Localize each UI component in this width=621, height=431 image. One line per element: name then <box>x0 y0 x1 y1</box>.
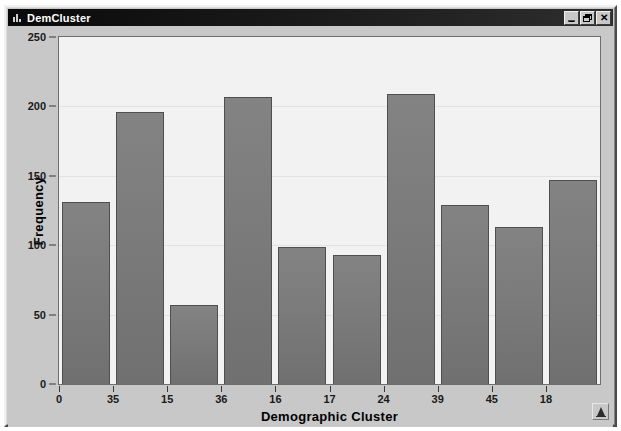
x-tick-label: 18 <box>540 393 552 405</box>
bar[interactable] <box>278 247 326 384</box>
x-tick-label: 39 <box>432 393 444 405</box>
plot-area <box>58 36 601 385</box>
x-tick-mark <box>113 386 114 392</box>
alert-triangle-base <box>596 416 606 417</box>
y-tick-label: 200 <box>28 100 46 112</box>
window-titlebar[interactable]: DemCluster ✕ <box>8 9 613 26</box>
bar-series <box>59 37 600 384</box>
x-tick-mark <box>492 386 493 392</box>
bar[interactable] <box>62 202 110 384</box>
bar[interactable] <box>441 205 489 384</box>
bar[interactable] <box>116 112 164 384</box>
x-tick-mark <box>330 386 331 392</box>
y-tick-mark <box>49 106 56 107</box>
x-tick-label: 0 <box>56 393 62 405</box>
x-tick-label: 17 <box>323 393 335 405</box>
x-tick-label: 45 <box>486 393 498 405</box>
y-tick-mark <box>49 37 56 38</box>
y-tick-label: 150 <box>28 170 46 182</box>
x-tick-mark <box>275 386 276 392</box>
application-window: DemCluster ✕ Frequency 050100150200250 <box>4 5 617 427</box>
y-tick-label: 0 <box>40 378 46 390</box>
y-axis: 050100150200250 <box>8 27 58 395</box>
restore-icon-back <box>583 16 590 22</box>
y-tick-mark <box>49 175 56 176</box>
bar-chart: Frequency 050100150200250 03515361617243… <box>8 27 613 427</box>
x-tick-mark <box>546 386 547 392</box>
x-tick-label: 35 <box>107 393 119 405</box>
bar[interactable] <box>549 180 597 384</box>
alert-triangle-icon[interactable] <box>592 403 609 420</box>
x-tick-mark <box>384 386 385 392</box>
y-tick-label: 100 <box>28 239 46 251</box>
x-tick-label: 24 <box>377 393 389 405</box>
bar[interactable] <box>333 255 381 384</box>
y-tick-mark <box>49 384 56 385</box>
x-tick-mark <box>438 386 439 392</box>
window-title: DemCluster <box>27 12 563 24</box>
bar[interactable] <box>224 97 272 384</box>
bar[interactable] <box>170 305 218 384</box>
y-tick-label: 250 <box>28 31 46 43</box>
x-tick-mark <box>221 386 222 392</box>
minimize-button[interactable] <box>564 11 579 25</box>
x-axis-label: Demographic Cluster <box>58 409 601 424</box>
alert-triangle-glyph <box>597 407 605 416</box>
minimize-icon <box>568 20 575 22</box>
x-tick-mark <box>167 386 168 392</box>
bar-chart-icon <box>11 12 23 24</box>
bar[interactable] <box>495 227 543 384</box>
y-tick-label: 50 <box>34 309 46 321</box>
y-tick-mark <box>49 245 56 246</box>
close-icon: ✕ <box>597 12 610 24</box>
x-tick-label: 15 <box>161 393 173 405</box>
x-tick-mark <box>59 386 60 392</box>
close-button[interactable]: ✕ <box>596 11 611 25</box>
bar[interactable] <box>387 94 435 384</box>
window-client-area: Frequency 050100150200250 03515361617243… <box>8 27 613 423</box>
restore-button[interactable] <box>580 11 595 25</box>
x-tick-label: 36 <box>215 393 227 405</box>
y-tick-mark <box>49 314 56 315</box>
x-tick-label: 16 <box>269 393 281 405</box>
